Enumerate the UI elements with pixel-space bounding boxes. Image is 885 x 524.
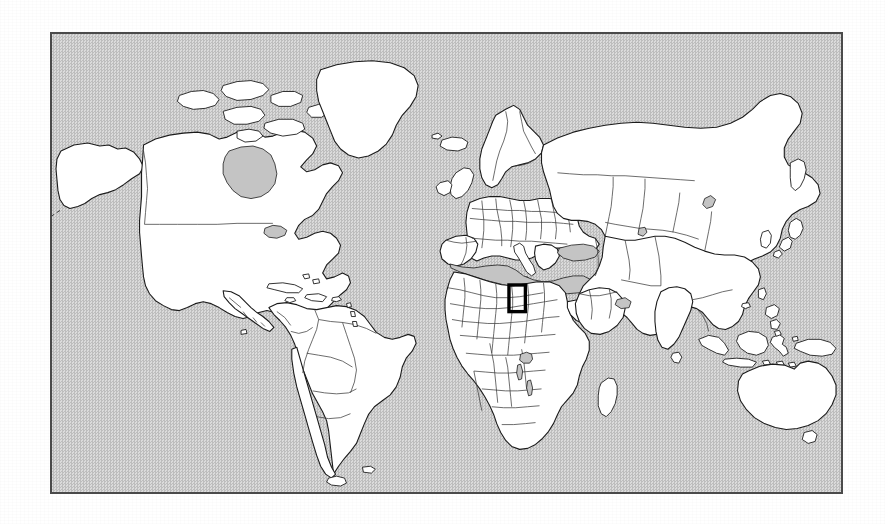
- landmass-south-america: [269, 303, 416, 486]
- landmass-australia: [738, 357, 841, 443]
- island-iceland: [432, 133, 468, 151]
- map-frame: [50, 32, 843, 494]
- world-map-svg: [52, 34, 841, 492]
- landmass-greenland: [317, 61, 418, 158]
- figure-root: [0, 0, 885, 524]
